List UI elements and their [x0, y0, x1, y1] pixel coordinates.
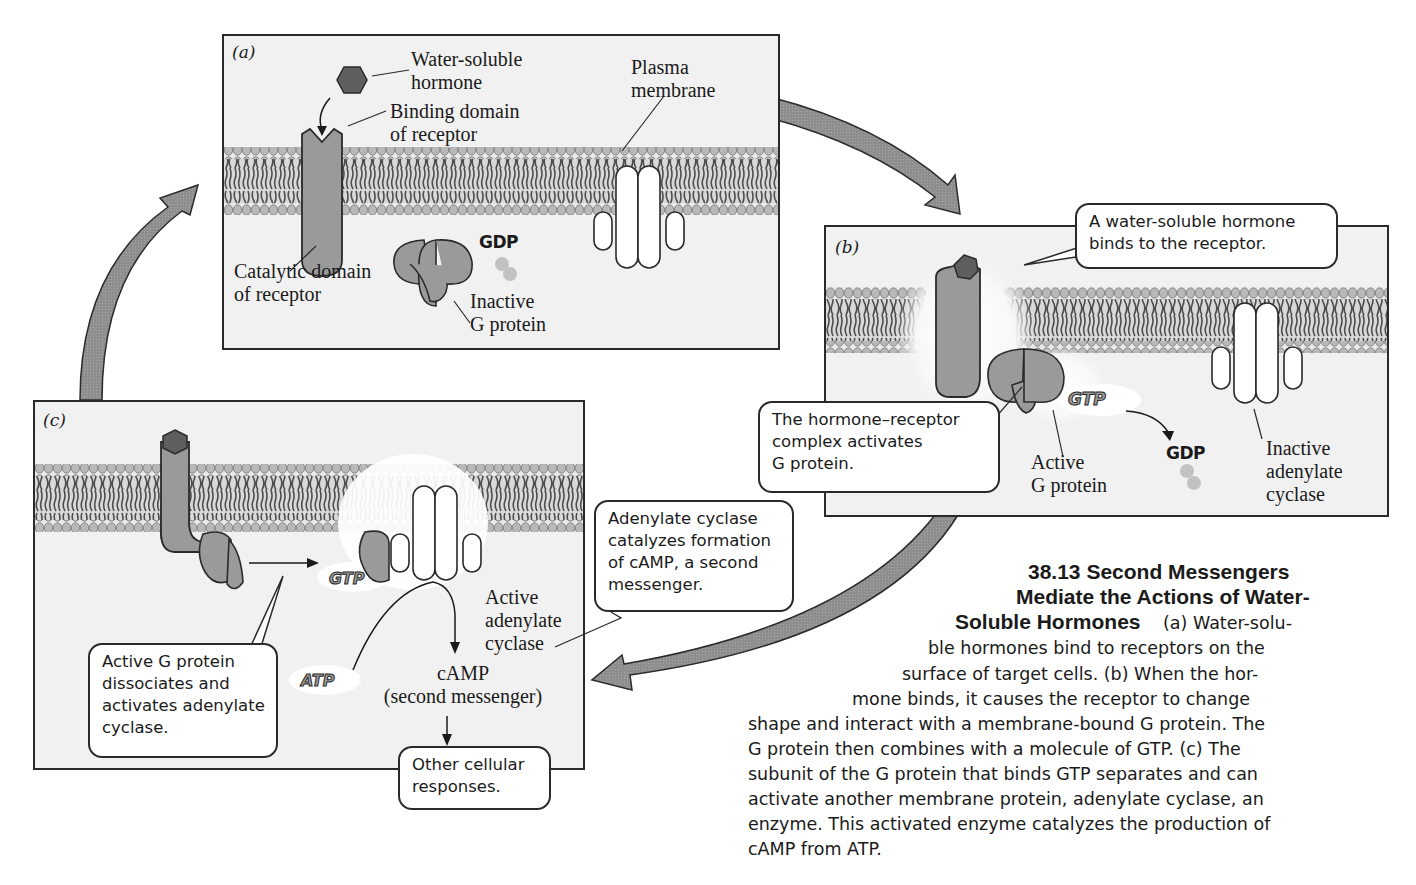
caption-line: G protein then combines with a molecule … [748, 738, 1241, 760]
hormone-icon [337, 67, 367, 93]
gtp-icon: GTP [1068, 389, 1106, 409]
callout-hormone-binds: A water-soluble hormonebinds to the rece… [1075, 203, 1338, 269]
receptor-icon [936, 264, 980, 397]
callout-adenylate-cyclase-catalyzes: Adenylate cyclasecatalyzes formationof c… [594, 500, 794, 612]
hormone-bound-icon [163, 430, 187, 454]
callout-complex-activates: The hormone–receptorcomplex activatesG p… [758, 401, 1000, 493]
caption-line: activate another membrane protein, adeny… [748, 788, 1264, 810]
label-plasma-membrane: Plasmamembrane [631, 56, 715, 102]
label-catalytic-domain: Catalytic domainof receptor [234, 260, 371, 306]
label-inactive-adenylate-cyclase: Inactiveadenylatecyclase [1266, 437, 1343, 506]
label-water-soluble-hormone: Water-solublehormone [411, 48, 522, 94]
arrow-a-to-b-icon [770, 97, 960, 214]
caption-line: cAMP from ATP. [748, 838, 882, 860]
arrow-c-to-a-icon [80, 185, 198, 400]
caption-line: subunit of the G protein that binds GTP … [748, 763, 1258, 785]
caption-title-line-3: Soluble Hormones [955, 610, 1141, 634]
label-active-adenylate-cyclase: Activeadenylatecyclase [485, 586, 562, 655]
caption-line: mone binds, it causes the receptor to ch… [852, 688, 1250, 710]
caption-line: enzyme. This activated enzyme catalyzes … [748, 813, 1270, 835]
label-gdp: GDP [1166, 443, 1205, 463]
caption-line: surface of target cells. (b) When the ho… [902, 663, 1258, 685]
caption-title-line-1: 38.13 Second Messengers [1028, 560, 1289, 584]
callout-g-protein-dissociates: Active G proteindissociates andactivates… [88, 643, 278, 758]
label-binding-domain: Binding domainof receptor [390, 100, 519, 146]
label-gdp: GDP [479, 232, 518, 252]
gtp-icon: GTP [329, 569, 365, 588]
caption-title-line-2: Mediate the Actions of Water- [1016, 585, 1310, 609]
caption-line: (a) Water-solu- [1163, 612, 1292, 634]
label-active-g-protein: ActiveG protein [1031, 451, 1107, 497]
panel-a: (a) [222, 34, 780, 350]
callout-other-responses: Other cellularresponses. [398, 746, 551, 810]
atp-icon: ATP [299, 671, 335, 690]
figure-38-13: (a) [0, 0, 1416, 885]
caption-line: shape and interact with a membrane-bound… [748, 713, 1265, 735]
g-protein-remaining-icon [199, 532, 231, 583]
caption-line: ble hormones bind to receptors on the [928, 637, 1265, 659]
label-camp: cAMP(second messenger) [378, 662, 548, 708]
label-inactive-g-protein: InactiveG protein [470, 290, 546, 336]
inactive-g-protein-icon [394, 240, 472, 306]
